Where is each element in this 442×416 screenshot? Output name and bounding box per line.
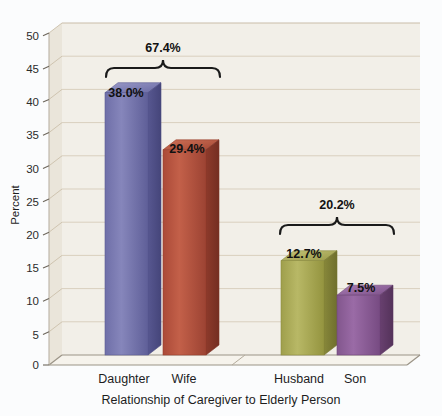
y-tick-40: 40: [26, 96, 39, 108]
bar-son: [337, 285, 393, 355]
category-label-son: Son: [344, 372, 366, 386]
y-tick-30: 30: [26, 163, 39, 175]
y-tick-15: 15: [26, 262, 39, 274]
y-tick-0: 0: [33, 359, 39, 371]
category-label-wife: Wife: [172, 372, 197, 386]
bar-daughter: [105, 83, 161, 355]
category-label-husband: Husband: [274, 372, 324, 386]
y-tick-20: 20: [26, 229, 39, 241]
y-tick-25: 25: [26, 196, 39, 208]
x-axis-title: Relationship of Caregiver to Elderly Per…: [101, 393, 340, 407]
bar-chart: 0 5 10 15 20 25 30 35 40 45 50 Percent 3…: [0, 0, 442, 416]
value-label-husband: 12.7%: [286, 247, 321, 261]
brace-label-67: 67.4%: [145, 41, 180, 55]
value-label-wife: 29.4%: [169, 142, 204, 156]
y-tick-10: 10: [26, 295, 39, 307]
chart-canvas: 0 5 10 15 20 25 30 35 40 45 50 Percent 3…: [0, 0, 442, 416]
brace-label-20: 20.2%: [319, 198, 354, 212]
y-tick-35: 35: [26, 129, 39, 141]
y-tick-5: 5: [33, 329, 39, 341]
y-axis-title: Percent: [9, 184, 21, 224]
bar-husband: [281, 251, 337, 355]
bar-wife: [163, 140, 219, 355]
y-tick-45: 45: [26, 63, 39, 75]
value-label-daughter: 38.0%: [108, 86, 143, 100]
category-label-daughter: Daughter: [98, 372, 149, 386]
y-tick-50: 50: [26, 30, 39, 42]
value-label-son: 7.5%: [347, 281, 376, 295]
